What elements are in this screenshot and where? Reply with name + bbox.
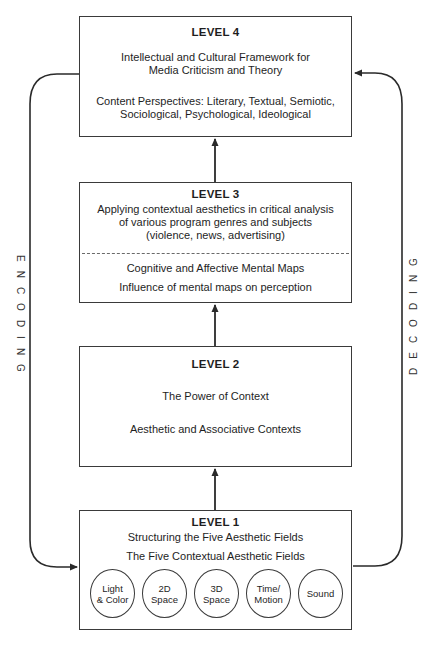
level-3-divider <box>82 253 349 254</box>
level-2-title: LEVEL 2 <box>80 358 351 370</box>
level-4-perspectives-line2: Sociological, Psychological, Ideological <box>80 108 351 121</box>
encoding-loop-arrow <box>30 74 79 567</box>
field-3d-space-line1: 3D <box>210 583 222 594</box>
level-2-power-of-context: The Power of Context <box>80 390 351 403</box>
field-light-color: Light& Color <box>90 569 135 618</box>
encoding-label: ENCODING <box>15 255 26 381</box>
field-time-motion-line1: Time/ <box>257 583 280 594</box>
level-3-applying-line1: Applying contextual aesthetics in critic… <box>80 203 351 216</box>
level-2-box: LEVEL 2 The Power of Context Aesthetic a… <box>79 346 352 467</box>
level-1-box: LEVEL 1 Structuring the Five Aesthetic F… <box>79 510 352 630</box>
field-2d-space-line2: Space <box>151 594 178 605</box>
decoding-loop-arrow <box>353 73 402 566</box>
level-4-framework-line1: Intellectual and Cultural Framework for <box>80 51 351 64</box>
level-3-applying-line3: (violence, news, advertising) <box>80 229 351 242</box>
level-3-influence: Influence of mental maps on perception <box>80 281 351 294</box>
field-light-color-line2: & Color <box>97 594 129 605</box>
level-1-structuring: Structuring the Five Aesthetic Fields <box>80 531 351 544</box>
level-1-contextual-fields: The Five Contextual Aesthetic Fields <box>80 550 351 563</box>
field-3d-space-line2: Space <box>203 594 230 605</box>
field-sound: Sound <box>298 569 343 618</box>
field-time-motion: Time/Motion <box>246 569 291 618</box>
decoding-label: DECODING <box>408 249 419 375</box>
level-3-mental-maps: Cognitive and Affective Mental Maps <box>80 262 351 275</box>
level-3-box: LEVEL 3 Applying contextual aesthetics i… <box>79 182 352 303</box>
field-light-color-line1: Light <box>102 583 123 594</box>
level-4-perspectives-line1: Content Perspectives: Literary, Textual,… <box>80 95 351 108</box>
level-4-box: LEVEL 4 Intellectual and Cultural Framew… <box>79 16 352 137</box>
level-4-framework-line2: Media Criticism and Theory <box>80 64 351 77</box>
field-time-motion-line2: Motion <box>254 594 283 605</box>
level-2-contexts: Aesthetic and Associative Contexts <box>80 423 351 436</box>
level-1-title: LEVEL 1 <box>80 516 351 528</box>
level-4-title: LEVEL 4 <box>80 26 351 38</box>
field-2d-space-line1: 2D <box>158 583 170 594</box>
field-sound-line1: Sound <box>307 588 334 599</box>
level-3-applying-line2: of various program genres and subjects <box>80 216 351 229</box>
field-2d-space: 2DSpace <box>142 569 187 618</box>
level-3-title: LEVEL 3 <box>80 188 351 200</box>
field-3d-space: 3DSpace <box>194 569 239 618</box>
